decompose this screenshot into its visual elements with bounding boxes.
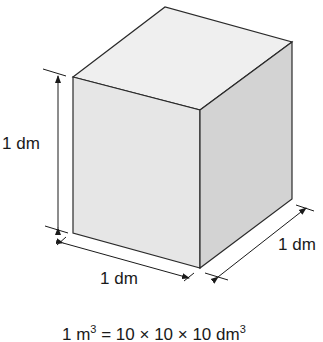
- cube-front-face: [73, 77, 200, 268]
- formula-lhs: 1 m: [62, 325, 90, 342]
- depth-tick-bottom: [205, 273, 228, 280]
- formula-rhs: = 10 × 10 × 10 dm: [96, 325, 239, 342]
- cube-diagram: [0, 0, 323, 342]
- height-tick-top: [43, 69, 66, 76]
- volume-formula: 1 m3 = 10 × 10 × 10 dm3: [62, 323, 246, 342]
- depth-label: 1 dm: [278, 235, 316, 255]
- height-tick-bottom: [45, 226, 68, 233]
- height-label: 1 dm: [2, 134, 40, 154]
- depth-tick-top: [296, 205, 314, 211]
- formula-rhs-exponent: 3: [240, 323, 246, 335]
- width-label: 1 dm: [100, 269, 138, 289]
